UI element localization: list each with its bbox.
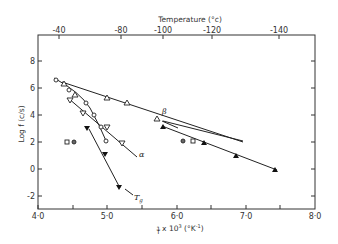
x-tick-label: 8·0 (309, 212, 322, 221)
y-tick-label: 4 (30, 111, 35, 120)
y-tick-label: 6 (30, 84, 35, 93)
x-tick-label: 7·0 (240, 212, 253, 221)
top-tick-label: -40 (52, 26, 65, 35)
tg-label: Tg (134, 193, 143, 204)
alpha-label: α (139, 150, 145, 159)
top-tick-label: -120 (203, 26, 221, 35)
x-tick-label: 6·0 (171, 212, 184, 221)
top-tick-label: -100 (154, 26, 172, 35)
tg-arrow (125, 189, 133, 195)
x-tick-label: 4·0 (32, 212, 45, 221)
top-tick-label: -140 (270, 26, 288, 35)
square-circle-markers (65, 139, 195, 144)
fit-lines (54, 78, 277, 195)
open-circle-markers (54, 78, 108, 143)
top-axis-label: Temperature (°c) (157, 15, 222, 24)
chart: 4·0 5·0 6·0 7·0 8·0 1Tx 103 (°K-1) -40 -… (0, 0, 338, 244)
y-tick-label: 2 (30, 138, 35, 147)
y-axis-label: Log f (c/s) (17, 105, 26, 142)
x-tick-label: 5·0 (101, 212, 114, 221)
y-tick-label: 8 (30, 57, 35, 66)
beta-label: β (161, 107, 167, 116)
plot-frame (38, 35, 315, 209)
y-tick-label: -2 (27, 192, 35, 201)
y-tick-label: 0 (30, 165, 35, 174)
top-tick-label: -80 (114, 26, 127, 35)
right-axis (311, 61, 315, 196)
beta-lower-line (162, 126, 277, 170)
x-axis-label: 1Tx 103 (°K-1) (155, 223, 203, 235)
beta-upper-line (62, 82, 243, 142)
